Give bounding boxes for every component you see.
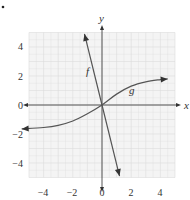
x-tick-label: −2 xyxy=(67,187,78,198)
x-axis-left-arrow-icon xyxy=(23,103,28,107)
y-tick-label: −2 xyxy=(12,129,23,140)
y-tick-label: 2 xyxy=(18,71,23,82)
x-tick-label: 0 xyxy=(100,187,105,198)
y-axis-label: y xyxy=(98,12,104,24)
x-axis-arrow-icon xyxy=(176,103,181,107)
x-tick-label: −4 xyxy=(38,187,49,198)
y-tick-label: 0 xyxy=(18,100,23,111)
corner-dot xyxy=(2,6,5,9)
x-tick-labels: −4 −2 0 2 4 xyxy=(38,187,163,198)
y-tick-label: −4 xyxy=(12,158,23,169)
x-tick-label: 2 xyxy=(129,187,134,198)
graph-figure: x y −4 −2 0 2 4 4 2 0 −2 −4 f g xyxy=(0,0,190,200)
g-label: g xyxy=(129,84,135,96)
y-tick-label: 4 xyxy=(18,41,23,52)
x-axis-label: x xyxy=(183,99,189,111)
y-tick-labels: 4 2 0 −2 −4 xyxy=(12,41,23,169)
x-tick-label: 4 xyxy=(158,187,163,198)
y-axis-arrow-icon xyxy=(100,25,104,30)
